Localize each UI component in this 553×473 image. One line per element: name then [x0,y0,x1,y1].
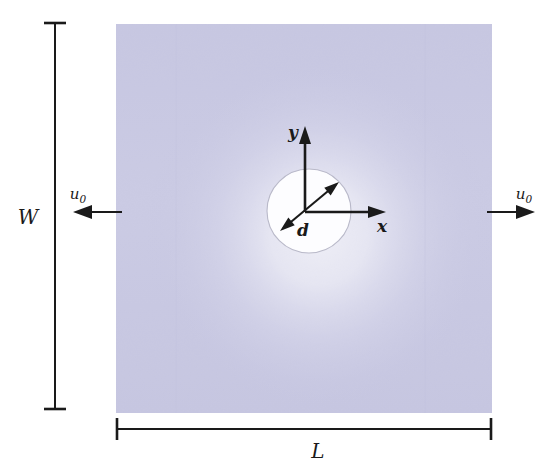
x-axis-label: x [376,216,388,236]
left-load-label-base: u [70,185,80,203]
y-axis-label: y [287,122,299,142]
width-label: W [18,205,40,229]
length-dimension: L [116,418,492,463]
left-load-label-subscript: 0 [79,193,86,205]
width-dimension: W [18,22,66,410]
figure-canvas: d y x W L [0,0,553,473]
right-load-label: u0 [516,185,533,205]
left-load-arrow-group: u0 [70,185,122,219]
right-load-arrow-group: u0 [487,185,535,219]
right-load-arrowhead [516,205,535,219]
length-label: L [310,439,324,463]
diameter-label: d [297,220,309,240]
right-load-label-subscript: 0 [525,193,532,205]
left-load-arrowhead [73,205,92,219]
plate-with-hole-diagram: d y x W L [0,0,553,473]
right-load-label-base: u [516,185,526,203]
left-load-label: u0 [70,185,87,205]
